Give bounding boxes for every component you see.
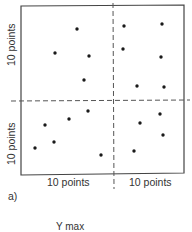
data-point <box>52 140 55 143</box>
data-point <box>86 109 89 112</box>
y-label-top: 10 points <box>6 23 17 66</box>
data-point <box>99 153 102 156</box>
data-point <box>122 24 125 27</box>
data-point <box>138 121 141 124</box>
data-point <box>33 146 36 149</box>
outer-frame <box>21 5 184 175</box>
data-point <box>43 123 46 126</box>
data-point <box>67 117 70 120</box>
y-label-bottom: 10 points <box>6 122 17 165</box>
data-point <box>158 112 161 115</box>
data-point <box>160 22 163 25</box>
data-point <box>82 78 85 81</box>
scatter-diagram <box>0 0 192 232</box>
data-point <box>53 51 56 54</box>
data-point <box>162 85 165 88</box>
data-point <box>121 47 124 50</box>
data-point <box>159 55 162 58</box>
x-label-right: 10 points <box>129 177 172 188</box>
data-point <box>135 84 138 87</box>
data-point <box>75 27 78 30</box>
x-label-left: 10 points <box>47 177 90 188</box>
quadrant-dividers <box>11 3 190 189</box>
data-point <box>87 54 90 57</box>
panel-label: a) <box>8 191 17 202</box>
data-points <box>33 22 165 156</box>
data-point <box>161 133 164 136</box>
data-point <box>132 149 135 152</box>
y-max-label: Y max <box>56 222 84 232</box>
